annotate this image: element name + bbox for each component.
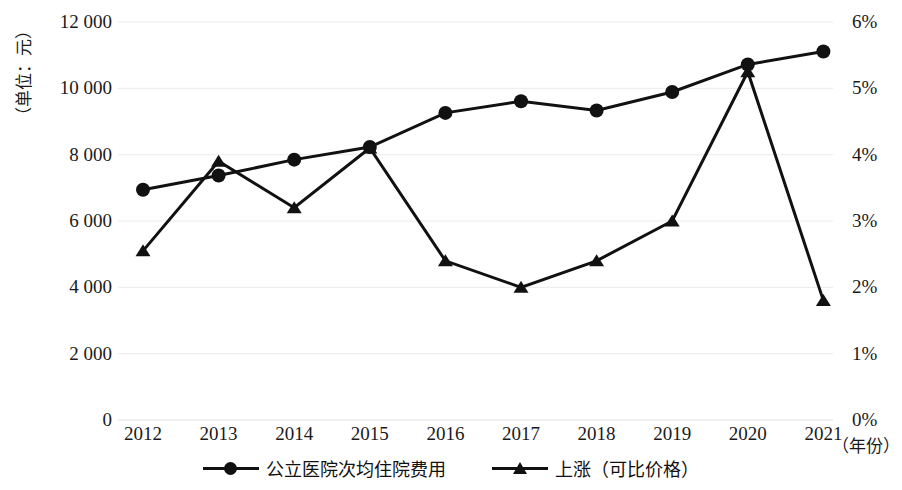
gridlines [118,22,833,420]
legend-label: 公立医院次均住院费用 [266,455,446,481]
data-point-triangle-marker [438,254,453,266]
legend-marker [224,462,237,475]
x-axis-tick-label: 2017 [481,424,561,443]
x-axis-tick-label: 2016 [405,424,485,443]
data-point-circle-marker [816,45,830,59]
data-point-circle-marker [514,94,528,108]
x-axis-tick-label: 2014 [254,424,334,443]
line-chart: （单位：元） 02 0004 0006 0008 00010 00012 000… [0,0,902,490]
data-point-triangle-marker [211,155,226,167]
data-point-circle-marker [136,183,150,197]
legend-label: 上涨（可比价格） [555,455,699,481]
x-axis-title: （年份） [832,432,900,457]
x-axis-tick-label: 2018 [557,424,637,443]
x-axis-tick-label: 2019 [632,424,712,443]
legend-marker [513,462,527,474]
data-point-triangle-marker [589,254,604,266]
legend-item[interactable]: 公立医院次均住院费用 [203,455,446,481]
x-axis-tick-label: 2020 [708,424,788,443]
data-point-circle-marker [212,169,226,183]
data-point-circle-marker [287,153,301,167]
data-point-triangle-marker [816,294,831,306]
x-axis-tick-label: 2015 [330,424,410,443]
series-growth-line [136,65,831,306]
x-axis-tick-label: 2012 [103,424,183,443]
chart-legend: 公立医院次均住院费用上涨（可比价格） [0,455,902,481]
legend-item[interactable]: 上涨（可比价格） [492,455,699,481]
data-point-circle-marker [665,85,679,99]
plot-area [0,0,902,490]
data-point-circle-marker [438,106,452,120]
data-point-circle-marker [590,104,604,118]
x-axis-tick-label: 2013 [179,424,259,443]
data-point-triangle-marker [665,214,680,226]
legend-triangle-marker-icon [492,460,548,476]
legend-circle-marker-icon [203,460,259,476]
